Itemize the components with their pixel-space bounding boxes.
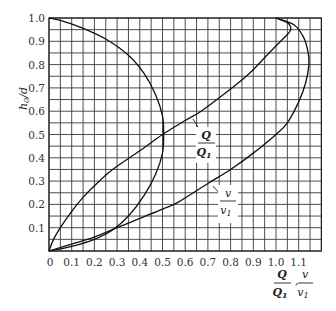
- x-tick-label: 0.8: [222, 256, 239, 268]
- y-axis-ticks: 0.10.20.30.40.50.60.70.80.91.0: [28, 12, 45, 234]
- x-axis-ticks: 00.10.20.30.40.50.60.70.80.91.01.1: [47, 256, 307, 268]
- chart: 0.10.20.30.40.50.60.70.80.91.0 00.10.20.…: [0, 0, 336, 311]
- svg-text:v: v: [225, 187, 232, 200]
- svg-text:h0/d: h0/d: [17, 87, 31, 110]
- x-axis-label: Q Q1 , v v1: [272, 268, 313, 300]
- x-tick-label: 0.7: [200, 256, 217, 268]
- svg-text:Q: Q: [277, 268, 287, 281]
- x-tick-label: 0.3: [109, 256, 126, 268]
- y-tick-label: 0.5: [28, 129, 45, 141]
- x-tick-label: 1.0: [268, 256, 285, 268]
- svg-text:v1: v1: [297, 286, 308, 300]
- y-axis-label: h0/d: [17, 87, 31, 110]
- y-tick-label: 0.9: [28, 35, 45, 47]
- y-tick-label: 0.8: [28, 59, 45, 71]
- y-tick-label: 0.6: [28, 105, 45, 117]
- x-tick-label: 0.1: [63, 256, 80, 268]
- x-tick-label: 0.9: [245, 256, 262, 268]
- y-tick-label: 0.4: [28, 152, 45, 164]
- x-tick-label: 0.2: [86, 256, 103, 268]
- x-tick-label: 0.5: [154, 256, 171, 268]
- y-tick-label: 0.3: [28, 175, 45, 187]
- x-tick-label: 1.1: [290, 256, 307, 268]
- svg-text:Q1: Q1: [272, 286, 287, 300]
- y-tick-label: 0.7: [28, 82, 45, 94]
- x-tick-label: 0: [47, 256, 54, 268]
- svg-text:v: v: [302, 268, 309, 281]
- svg-text:Q: Q: [201, 129, 211, 142]
- x-tick-label: 0.4: [131, 256, 148, 268]
- x-tick-label: 0.6: [177, 256, 194, 268]
- y-tick-label: 1.0: [28, 12, 45, 24]
- y-tick-label: 0.2: [28, 198, 45, 210]
- grid-lines: [49, 18, 321, 251]
- y-tick-label: 0.1: [28, 222, 45, 234]
